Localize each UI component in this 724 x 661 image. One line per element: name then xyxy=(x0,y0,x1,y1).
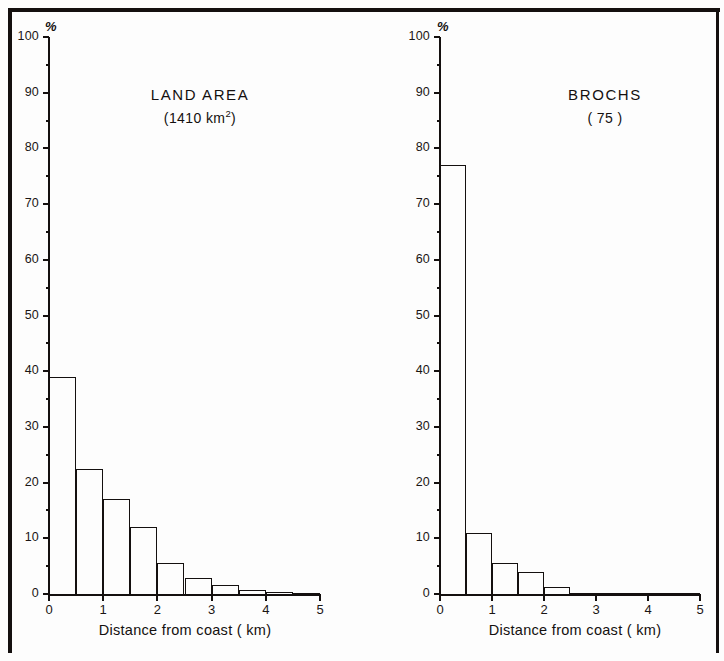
histogram-bar-brochs-2.5-3 xyxy=(570,593,596,595)
x-axis-title-brochs: Distance from coast ( km) xyxy=(430,622,720,638)
histogram-bar-land-area-0-0.5 xyxy=(49,377,76,595)
histogram-bar-land-area-1.5-2 xyxy=(130,527,157,595)
figure-root: LAND AREA (1410 km2) % 01020304050607080… xyxy=(0,0,724,661)
histogram-bar-land-area-3.5-4 xyxy=(239,590,266,595)
histogram-bar-land-area-1-1.5 xyxy=(103,499,130,595)
plot-area-brochs: 0102030405060708090100012345 xyxy=(380,0,724,661)
histogram-bar-land-area-3-3.5 xyxy=(212,585,239,595)
histogram-bar-land-area-2.5-3 xyxy=(185,578,212,595)
x-axis-title-land-area: Distance from coast ( km) xyxy=(40,622,330,638)
histogram-bars-land-area xyxy=(0,0,380,661)
histogram-bar-brochs-1.5-2 xyxy=(518,572,544,595)
chart-panel-land-area: LAND AREA (1410 km2) % 01020304050607080… xyxy=(0,0,380,661)
histogram-bar-brochs-4.5-5 xyxy=(674,593,700,595)
histogram-bar-land-area-2-2.5 xyxy=(157,563,184,595)
histogram-bar-brochs-2-2.5 xyxy=(544,587,570,595)
histogram-bar-brochs-0.5-1 xyxy=(466,533,492,595)
histogram-bar-land-area-0.5-1 xyxy=(76,469,103,595)
histogram-bar-brochs-3.5-4 xyxy=(622,593,648,595)
histogram-bar-land-area-4.5-5 xyxy=(293,593,320,595)
histogram-bar-brochs-1-1.5 xyxy=(492,563,518,595)
histogram-bar-brochs-0-0.5 xyxy=(440,165,466,595)
histogram-bars-brochs xyxy=(380,0,724,661)
chart-panel-brochs: BROCHS ( 75 ) % 010203040506070809010001… xyxy=(380,0,724,661)
histogram-bar-land-area-4-4.5 xyxy=(266,592,293,595)
histogram-bar-brochs-3-3.5 xyxy=(596,593,622,595)
histogram-bar-brochs-4-4.5 xyxy=(648,593,674,595)
plot-area-land-area: 0102030405060708090100012345 xyxy=(0,0,380,661)
